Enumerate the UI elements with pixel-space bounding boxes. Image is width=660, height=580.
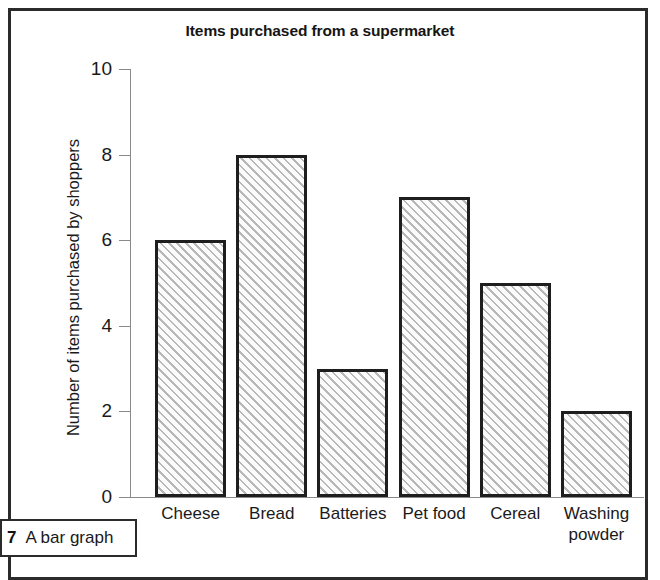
category-label-pet-food: Pet food [394, 503, 475, 524]
y-tick-4 [119, 326, 130, 327]
y-tick-6 [119, 240, 130, 241]
y-tick-0 [119, 497, 130, 498]
y-tick-label-10: 10 [80, 59, 112, 78]
category-label-washing-powder: Washing powder [556, 503, 637, 545]
bar-pet-food [399, 197, 470, 497]
y-tick-label-2: 2 [80, 401, 112, 420]
figure-caption: 7 A bar graph [0, 519, 137, 557]
category-label-cereal: Cereal [475, 503, 556, 524]
bar-washing-powder [561, 411, 632, 497]
bar-cheese [155, 240, 226, 497]
category-label-cheese: Cheese [150, 503, 231, 524]
y-axis-line [130, 69, 131, 498]
category-label-batteries: Batteries [312, 503, 393, 524]
bar-bread [236, 155, 307, 497]
y-tick-8 [119, 155, 130, 156]
y-tick-label-4: 4 [80, 316, 112, 335]
y-tick-2 [119, 411, 130, 412]
caption-label: A bar graph [25, 528, 113, 548]
bar-cereal [480, 283, 551, 497]
y-tick-label-8: 8 [80, 145, 112, 164]
bar-batteries [317, 369, 388, 497]
y-tick-10 [119, 69, 130, 70]
category-label-bread: Bread [231, 503, 312, 524]
caption-number: 7 [7, 528, 16, 548]
y-tick-label-0: 0 [80, 487, 112, 506]
y-tick-label-6: 6 [80, 230, 112, 249]
x-axis-line [130, 497, 644, 498]
